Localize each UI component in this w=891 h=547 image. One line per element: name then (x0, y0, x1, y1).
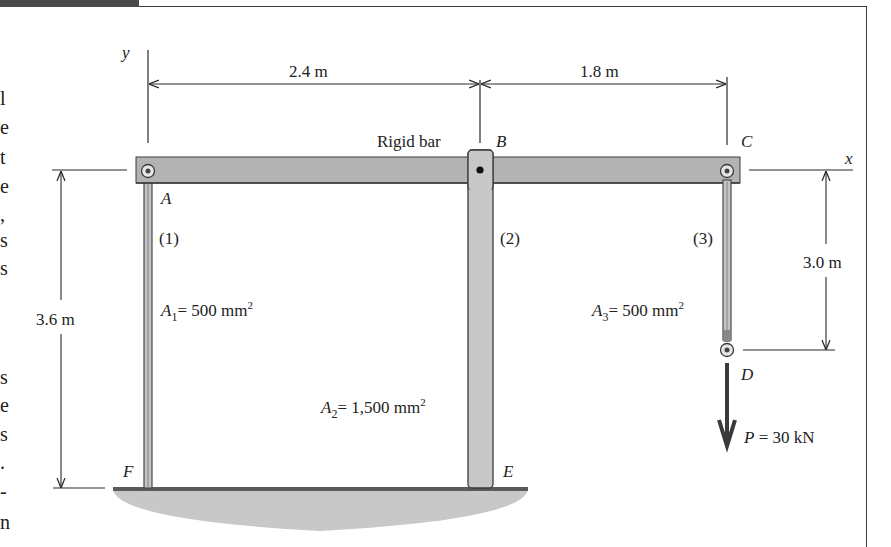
ground-surface (113, 487, 528, 491)
y-axis-label: y (122, 44, 130, 61)
rigid-bar-right (493, 157, 740, 183)
dimension-rod3-label: 3.0 m (803, 254, 842, 271)
load-label: P = 30 kN (744, 429, 815, 446)
x-axis-label: x (845, 150, 853, 167)
member-1-area: A1= 500 mm2 (161, 302, 253, 319)
point-a-label: A (161, 190, 171, 207)
dimension-ab-label: 2.4 m (289, 63, 328, 80)
ground-support (113, 490, 528, 531)
member-3-id: (3) (693, 230, 713, 247)
point-f-label: F (123, 463, 133, 480)
member-2-area: A2= 1,500 mm2 (321, 399, 426, 416)
rigid-bar-label: Rigid bar (377, 133, 441, 150)
point-d-label: D (741, 366, 753, 383)
member-3-area: A3= 500 mm2 (592, 302, 684, 319)
dimension-bar-height-label: 3.6 m (36, 311, 75, 328)
rigid-bar-left (136, 157, 468, 183)
point-c-label: C (741, 133, 752, 150)
dimension-bc-label: 1.8 m (580, 63, 619, 80)
point-e-label: E (503, 463, 513, 480)
member-1-id: (1) (159, 230, 179, 247)
pin-b (476, 166, 483, 173)
point-b-label: B (496, 133, 506, 150)
member-2-id: (2) (500, 230, 520, 247)
post-2 (468, 150, 493, 488)
